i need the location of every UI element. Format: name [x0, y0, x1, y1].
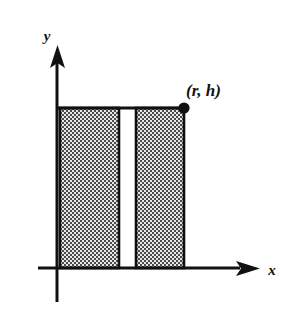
y-axis-label: y — [42, 28, 51, 44]
white-gap — [121, 110, 134, 267]
right-shaded-rectangle — [136, 108, 184, 268]
point-label: (r, h) — [186, 81, 221, 100]
coordinate-diagram: y x (r, h) — [0, 0, 297, 317]
x-axis-label: x — [267, 262, 276, 278]
figure-container: y x (r, h) — [0, 0, 297, 317]
point-marker — [178, 102, 189, 113]
left-shaded-rectangle — [60, 108, 119, 268]
